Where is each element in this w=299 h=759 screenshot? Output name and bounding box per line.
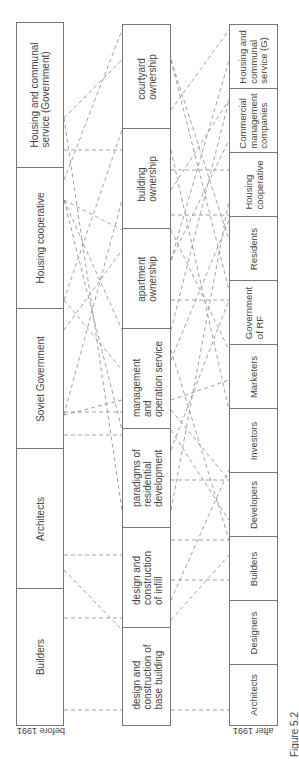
connection-line: [64, 400, 122, 415]
after-actor-label: Housing cooperative: [243, 160, 264, 209]
connection-line: [171, 470, 229, 600]
after-actor-label: Architects: [248, 674, 259, 716]
after-actor-label: Commercial management companies: [238, 93, 270, 148]
after-actor-box: Architects: [229, 664, 278, 726]
connection-line: [171, 60, 229, 240]
connection-line: [64, 30, 122, 180]
connection-line: [171, 410, 229, 480]
before-1991-column: Housing and communal service (Government…: [16, 0, 64, 759]
connection-line: [64, 570, 122, 630]
process-label: courtyard ownership: [136, 54, 158, 100]
before-actor-box: Builders: [16, 588, 64, 726]
after-actor-label: Developers: [248, 480, 259, 528]
after-actor-box: Government of RF: [229, 280, 278, 345]
connection-line: [171, 60, 229, 290]
before-actor-box: Housing cooperative: [16, 167, 64, 309]
process-label: management and operation service: [130, 340, 163, 416]
after-actor-box: Designers: [229, 600, 278, 665]
connection-line: [64, 200, 122, 415]
before-actor-label: Soviet Government: [35, 336, 46, 422]
connection-line: [171, 430, 229, 520]
after-actor-label: Residents: [248, 227, 259, 269]
process-label: building ownership: [136, 156, 158, 202]
process-box: courtyard ownership: [122, 24, 171, 129]
after-actor-label: Investors: [248, 421, 259, 460]
before-actor-box: Housing and communal service (Government…: [16, 22, 64, 168]
before-actor-box: Architects: [16, 448, 64, 589]
connection-line: [171, 150, 229, 410]
after-actor-label: Government of RF: [243, 286, 264, 338]
process-box: apartment ownership: [122, 228, 171, 329]
after-actor-label: Designers: [248, 611, 259, 654]
connection-line: [171, 60, 229, 260]
after-actor-box: Developers: [229, 472, 278, 537]
after-actor-label: Marketers: [248, 355, 259, 397]
process-column: courtyard ownershipbuilding ownershipapa…: [122, 0, 171, 759]
connection-line: [171, 380, 229, 400]
process-box: management and operation service: [122, 328, 171, 429]
before-actor-label: Housing and communal service (Government…: [29, 42, 51, 147]
after-1991-label: after 1991: [233, 726, 274, 736]
connection-line: [64, 200, 122, 330]
connection-line: [171, 555, 229, 620]
connection-line: [64, 118, 122, 510]
after-actor-box: Housing cooperative: [229, 152, 278, 217]
after-actor-box: Builders: [229, 536, 278, 601]
connection-line: [64, 130, 122, 300]
before-actor-label: Builders: [35, 639, 46, 675]
after-actor-box: Housing and communal service (G): [229, 24, 278, 89]
process-label: design and construction of base building: [130, 644, 163, 709]
after-actor-box: Residents: [229, 216, 278, 281]
after-actor-label: Builders: [248, 551, 259, 585]
process-box: paradigms of residential development: [122, 428, 171, 528]
after-actor-box: Investors: [229, 408, 278, 473]
process-box: design and construction of infill: [122, 527, 171, 628]
connection-line: [171, 200, 229, 510]
before-actor-box: Soviet Government: [16, 308, 64, 449]
before-1991-label: before 1991: [17, 726, 65, 736]
connection-line: [64, 200, 122, 230]
after-1991-column: Housing and communal service (G)Commerci…: [229, 0, 278, 759]
before-actor-label: Housing cooperative: [35, 192, 46, 283]
connection-line: [171, 30, 229, 110]
process-box: design and construction of base building: [122, 627, 171, 726]
after-actor-label: Housing and communal service (G): [238, 30, 270, 83]
process-label: design and construction of infill: [130, 551, 163, 605]
figure-caption: Figure 5.2: [289, 712, 299, 757]
connection-line: [64, 250, 122, 330]
connection-line: [171, 300, 229, 450]
before-actor-label: Architects: [35, 497, 46, 541]
process-label: paradigms of residential development: [130, 449, 163, 507]
after-actor-box: Marketers: [229, 344, 278, 409]
connection-line: [64, 60, 122, 118]
process-label: apartment ownership: [136, 256, 158, 302]
after-actor-box: Commercial management companies: [229, 88, 278, 153]
process-box: building ownership: [122, 128, 171, 229]
